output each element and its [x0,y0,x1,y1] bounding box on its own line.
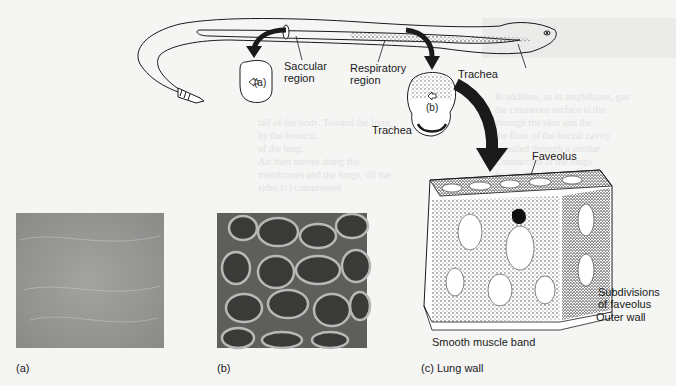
label-subdivisions-line2: of faveolus [598,298,660,310]
snake-outline [138,19,556,104]
label-faveolus: Faveolus [532,150,577,162]
label-trachea-top: Trachea [458,68,498,80]
label-section-a: (a) [254,77,266,89]
caption-b: (b) [217,362,230,374]
label-trachea-cross-section: Trachea [372,124,412,136]
label-subdivisions-line1: Subdivisions [598,286,660,298]
label-subdivisions-of-faveolus: Subdivisions of faveolus [598,286,660,310]
label-respiratory-line2: region [350,74,406,86]
label-respiratory-line1: Respiratory [350,62,406,74]
label-section-b: (b) [426,102,438,114]
label-outer-wall: Outer wall [596,311,646,323]
label-respiratory-region: Respiratory region [350,62,406,86]
arrow-to-c [456,84,492,152]
arrow-to-a [254,30,286,48]
label-smooth-muscle-band: Smooth muscle band [432,336,535,348]
label-saccular-line1: Saccular [284,60,327,72]
photo-a-rect [16,213,164,348]
label-saccular-line2: region [284,72,327,84]
lung-wall-block [424,170,612,330]
label-saccular-region: Saccular region [284,60,327,84]
caption-c-lung-wall: (c) Lung wall [421,362,483,374]
diagram-drawing [0,0,676,386]
caption-a: (a) [16,362,29,374]
